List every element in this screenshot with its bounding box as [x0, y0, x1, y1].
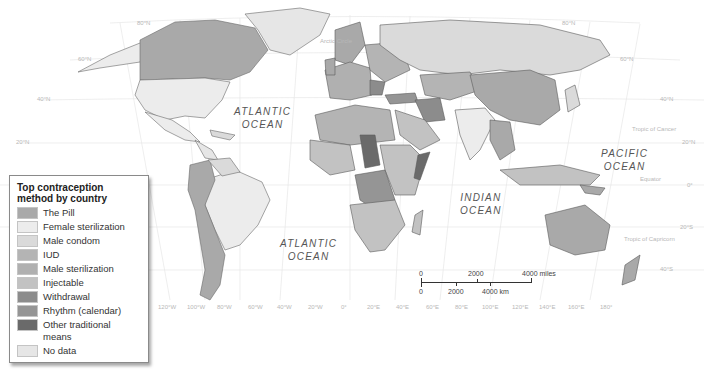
papua [580, 185, 605, 195]
madagascar [412, 210, 423, 235]
lat-label: 40°S [660, 266, 673, 272]
scale-miles-mid: 2000 [468, 270, 484, 277]
tropic-cancer-label: Tropic of Cancer [632, 126, 676, 132]
lon-label: 180° [600, 304, 612, 310]
arctic-circle-label: Arctic Circle [320, 38, 352, 44]
lat-label: 80°N [137, 20, 150, 26]
west-africa [310, 140, 355, 175]
north-africa [315, 105, 395, 145]
legend-item-other-traditional: Other traditional means [17, 319, 148, 343]
swatch [17, 235, 38, 247]
south-america [188, 158, 270, 300]
lon-label: 20°W [308, 304, 323, 310]
swatch [17, 249, 38, 261]
lat-label: 60°N [78, 56, 91, 62]
ocean-label-pacific: PACIFICOCEAN [601, 147, 648, 173]
scale-miles-end: 4000 miles [522, 270, 556, 277]
legend-item-the-pill: The Pill [17, 207, 148, 219]
balkans [370, 80, 385, 95]
canada [140, 20, 268, 80]
swatch [17, 319, 38, 331]
scale-km-mid: 2000 [448, 288, 464, 295]
scale-km-zero: 0 [419, 288, 423, 295]
lat-label: 40°N [37, 96, 50, 102]
swatch [17, 291, 38, 303]
swatch [17, 277, 38, 289]
legend-item-rhythm: Rhythm (calendar) [17, 305, 148, 317]
lat-label: 20°S [680, 224, 693, 230]
caribbean [210, 130, 235, 140]
lon-label: 0° [341, 304, 347, 310]
legend-item-male-sterilization: Male sterilization [17, 263, 148, 275]
lon-label: 120°W [158, 304, 176, 310]
legend-item-withdrawal: Withdrawal [17, 291, 148, 303]
legend-item-female-sterilization: Female sterilization [17, 221, 148, 233]
lon-label: 100°E [482, 304, 498, 310]
lon-label: 80°E [455, 304, 468, 310]
legend-item-injectable: Injectable [17, 277, 148, 289]
lon-label: 120°E [512, 304, 528, 310]
ocean-label-north-atlantic: ATLANTICOCEAN [234, 105, 291, 131]
ocean-label-indian: INDIANOCEAN [460, 191, 502, 217]
lon-label: 60°W [248, 304, 263, 310]
equator-label: Equator [640, 176, 661, 182]
lon-label: 60°E [426, 304, 439, 310]
swatch [17, 207, 38, 219]
uk [325, 58, 335, 75]
southern-africa [350, 200, 405, 252]
scale-line [421, 282, 531, 283]
lon-label: 100°W [187, 304, 205, 310]
lon-label: 40°E [396, 304, 409, 310]
legend-item-male-condom: Male condom [17, 235, 148, 247]
scale-bar: 0 2000 4000 miles 0 2000 4000 km [418, 268, 538, 304]
new-zealand [622, 255, 640, 285]
lat-label: 80°N [562, 20, 575, 26]
scale-km-end: 4000 km [482, 288, 509, 295]
legend: Top contraception method by country The … [9, 175, 149, 363]
tropic-capricorn-label: Tropic of Capricorn [624, 236, 675, 242]
lon-label: 160°E [568, 304, 584, 310]
lat-label: 20°N [16, 139, 29, 145]
india [455, 108, 495, 160]
swatch [17, 345, 38, 357]
lon-label: 140°E [539, 304, 555, 310]
ocean-label-south-atlantic: ATLANTICOCEAN [280, 237, 337, 263]
lat-label: 40°N [660, 96, 673, 102]
lon-label: 20°E [367, 304, 380, 310]
legend-item-iud: IUD [17, 249, 148, 261]
indonesia [500, 165, 600, 185]
lat-label: 20°N [682, 139, 695, 145]
russia [380, 20, 610, 75]
australia [545, 205, 610, 255]
legend-title: Top contraception method by country [17, 182, 148, 204]
legend-item-no-data: No data [17, 345, 148, 357]
lat-label: 60°N [620, 56, 633, 62]
scale-miles-zero: 0 [419, 270, 423, 277]
lon-label: 80°W [217, 304, 232, 310]
north-america [78, 8, 330, 160]
swatch [17, 305, 38, 317]
se-asia [490, 120, 515, 160]
lon-label: 40°W [277, 304, 292, 310]
turkey [385, 93, 418, 104]
lat-label: 0° [687, 182, 693, 188]
swatch [17, 221, 38, 233]
swatch [17, 263, 38, 275]
